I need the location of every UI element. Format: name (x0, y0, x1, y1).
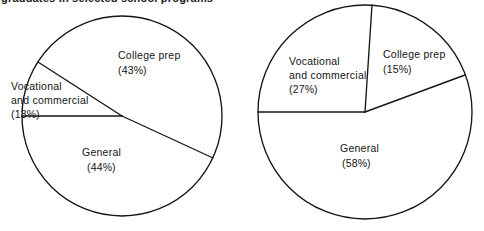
right-slice-pct-college-prep: (15%) (383, 63, 412, 75)
right-slice-pct-general: (58%) (342, 157, 371, 169)
left-slice-label-vocational-line1: Vocational (11, 80, 62, 92)
left-slice-pct-vocational: (13%) (11, 108, 40, 120)
right-slice-label-general: General (340, 142, 379, 154)
left-pie-divider-collegeprep-general (122, 116, 213, 158)
right-slice-label-college-prep: College prep (383, 48, 446, 60)
pie-chart-figure: graduates in selected school programs Co… (0, 0, 484, 231)
left-pie-chart: College prep (43%) Vocational and commer… (0, 0, 242, 231)
left-slice-label-general: General (82, 146, 121, 158)
left-slice-pct-general: (44%) (87, 161, 116, 173)
right-pie-divider-vocational-collegeprep (365, 5, 372, 112)
left-slice-label-college-prep: College prep (118, 49, 181, 61)
right-slice-label-vocational-line1: Vocational (289, 55, 340, 67)
right-slice-label-vocational-line2: and commercial (289, 69, 367, 81)
right-pie-divider-collegeprep-general (365, 75, 465, 112)
right-slice-pct-vocational: (27%) (289, 83, 318, 95)
left-slice-label-vocational-line2: and commercial (11, 94, 89, 106)
right-pie-chart: Vocational and commercial (27%) College … (242, 0, 484, 231)
left-slice-pct-college-prep: (43%) (118, 64, 147, 76)
